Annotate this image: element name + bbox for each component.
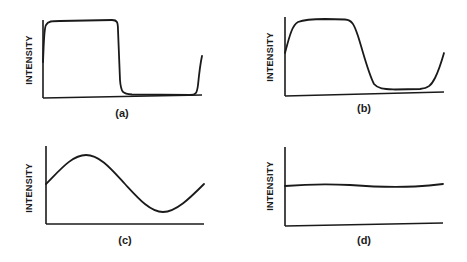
panel-label: (d) xyxy=(357,234,371,246)
figure: INTENSITY (a) INTENSITY (b) INTENSITY (c… xyxy=(0,0,467,262)
data-line xyxy=(43,20,202,95)
panel-a: INTENSITY (a) xyxy=(24,20,202,119)
data-line xyxy=(285,19,444,90)
y-axis-label: INTENSITY xyxy=(265,32,275,82)
y-axis-label: INTENSITY xyxy=(265,161,275,211)
data-line xyxy=(46,155,204,212)
panel-b: INTENSITY (b) xyxy=(265,17,444,114)
panel-d: INTENSITY (d) xyxy=(265,147,443,246)
panel-c: INTENSITY (c) xyxy=(24,146,204,246)
y-axis-label: INTENSITY xyxy=(24,35,34,85)
panel-label: (c) xyxy=(118,234,132,246)
panel-label: (a) xyxy=(115,107,129,119)
data-line xyxy=(285,184,443,187)
y-axis-label: INTENSITY xyxy=(24,163,34,213)
x-axis xyxy=(285,223,443,226)
panel-label: (b) xyxy=(357,102,371,114)
x-axis xyxy=(285,92,444,96)
